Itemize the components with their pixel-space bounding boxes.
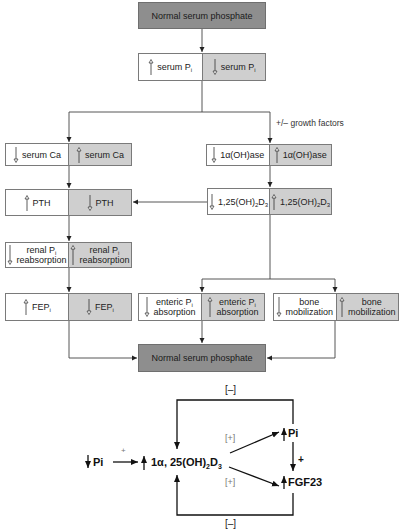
pth-increase: PTH	[6, 190, 68, 215]
normal-serum-phosphate-top: Normal serum phosphate	[138, 2, 266, 29]
arrow-down-icon	[212, 59, 218, 75]
bone-right-label: bonemobilization	[348, 297, 396, 317]
arrow-up-icon	[148, 59, 154, 75]
hydroxylase-box: 1α(OH)ase 1α(OH)ase	[206, 144, 332, 166]
renal-reabsorption-decrease: renal Pireabsorption	[6, 243, 68, 267]
fepi-decrease: FEPi	[68, 294, 131, 320]
calcitriol-label: 1α, 25(OH)2D3	[151, 456, 222, 468]
renal-right-label: renal Pireabsorption	[79, 245, 129, 265]
serum-pi-decrease: serum Pi	[202, 54, 266, 80]
serum-pi-increase: serum Pi	[139, 54, 202, 80]
normal-serum-phosphate-bottom: Normal serum phosphate	[138, 344, 266, 372]
pth-box: PTH PTH	[5, 189, 132, 216]
hydroxylase-increase: 1α(OH)ase	[269, 145, 332, 165]
pth-left-label: PTH	[33, 198, 51, 208]
vitamin-d-decrease: 1,25(OH)2D3	[208, 189, 269, 214]
hydroxylase-right-label: 1α(OH)ase	[283, 150, 327, 160]
fepi-increase: FEPi	[6, 294, 68, 320]
negative-feedback-bottom-label: [–]	[225, 518, 236, 529]
serum-ca-box: serum Ca serum Ca	[5, 143, 132, 166]
vitamin-d-right-label: 1,25(OH)2D3	[280, 197, 330, 207]
bone-mobilization-box: bonemobilization bonemobilization	[273, 293, 399, 321]
pth-decrease: PTH	[68, 190, 131, 215]
arrow-up-icon	[207, 297, 213, 317]
low-pi-label: Pi	[93, 456, 103, 468]
top-box-label: Normal serum phosphate	[151, 11, 252, 21]
high-pi-label: Pi	[288, 427, 298, 439]
fepi-right-label: FEPi	[95, 302, 114, 312]
fgf23-label: FGF23	[288, 476, 322, 488]
arrow-down-icon	[209, 194, 215, 210]
arrow-down-icon	[144, 297, 150, 317]
vitamin-d-box: 1,25(OH)2D3 1,25(OH)2D3	[207, 188, 332, 215]
positive-effect-upper-label: [+]	[225, 433, 235, 443]
serum-ca-right-label: serum Ca	[85, 150, 124, 160]
arrow-down-icon	[7, 245, 13, 265]
arrow-up-icon	[76, 147, 82, 163]
arrow-down-icon	[211, 147, 217, 163]
serum-pi-box: serum Pi serum Pi	[138, 53, 266, 81]
arrow-up-icon	[70, 245, 76, 265]
arrow-down-icon	[276, 297, 282, 317]
serum-ca-left-label: serum Ca	[22, 150, 61, 160]
serum-ca-decrease: serum Ca	[6, 144, 68, 165]
fepi-box: FEPi FEPi	[5, 293, 132, 321]
growth-factors-note: +/– growth factors	[276, 118, 344, 128]
serum-pi-right-label: serum Pi	[221, 62, 256, 72]
enteric-absorption-box: enteric Piabsorption enteric Piabsorptio…	[138, 293, 265, 321]
renal-reabsorption-box: renal Pireabsorption renal Pireabsorptio…	[5, 242, 132, 268]
enteric-left-label: enteric Piabsorption	[153, 297, 195, 317]
fepi-left-label: FEPi	[32, 302, 51, 312]
arrow-up-icon	[274, 147, 280, 163]
negative-feedback-top-label: [–]	[225, 384, 236, 395]
hydroxylase-left-label: 1α(OH)ase	[220, 150, 264, 160]
enteric-absorption-increase: enteric Piabsorption	[201, 294, 264, 320]
arrow-up-icon	[339, 297, 345, 317]
renal-reabsorption-increase: renal Pireabsorption	[68, 243, 131, 267]
bottom-box-label: Normal serum phosphate	[151, 353, 252, 363]
bone-left-label: bonemobilization	[285, 297, 333, 317]
renal-left-label: renal Pireabsorption	[16, 245, 66, 265]
pth-right-label: PTH	[96, 198, 114, 208]
arrow-down-icon	[87, 195, 93, 211]
arrow-up-icon	[24, 195, 30, 211]
enteric-right-label: enteric Piabsorption	[216, 297, 258, 317]
arrow-up-icon	[271, 194, 277, 210]
bone-mobilization-decrease: bonemobilization	[274, 294, 336, 320]
input-plus-label: +	[121, 446, 126, 455]
arrow-down-icon	[13, 147, 19, 163]
arrow-up-icon	[23, 299, 29, 315]
serum-pi-left-label: serum Pi	[157, 62, 192, 72]
vitamin-d-increase: 1,25(OH)2D3	[269, 189, 331, 214]
hydroxylase-decrease: 1α(OH)ase	[207, 145, 269, 165]
pi-to-fgf23-plus-label: +	[298, 454, 304, 465]
bone-mobilization-increase: bonemobilization	[336, 294, 399, 320]
positive-effect-lower-label: [+]	[225, 477, 235, 487]
serum-ca-increase: serum Ca	[68, 144, 131, 165]
vitamin-d-left-label: 1,25(OH)2D3	[218, 197, 268, 207]
enteric-absorption-decrease: enteric Piabsorption	[139, 294, 201, 320]
arrow-down-icon	[86, 299, 92, 315]
